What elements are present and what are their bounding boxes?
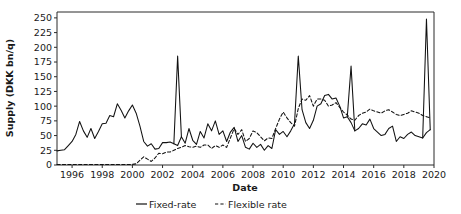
x-tick-label: 2000 (120, 169, 144, 180)
legend-label-flexible-rate: Flexible rate (228, 199, 287, 210)
y-tick-label: 125 (34, 86, 52, 97)
chart-background (0, 0, 461, 214)
y-tick-label: 200 (34, 42, 52, 53)
x-tick-label: 2004 (181, 169, 205, 180)
x-tick-label: 2006 (211, 169, 235, 180)
y-tick-label: 225 (34, 27, 52, 38)
y-axis-title: Supply (DKK bn/q) (4, 39, 15, 137)
x-tick-label: 2014 (331, 169, 355, 180)
y-tick-label: 250 (34, 12, 52, 23)
x-tick-label: 2010 (271, 169, 295, 180)
x-tick-label: 1996 (60, 169, 84, 180)
legend-label-fixed-rate: Fixed-rate (149, 199, 196, 210)
supply-line-chart: 0255075100125150175200225250 19961998200… (0, 0, 461, 214)
x-axis-title: Date (232, 182, 257, 193)
x-tick-label: 2016 (362, 169, 386, 180)
x-tick-label: 2012 (301, 169, 325, 180)
x-tick-label: 2018 (392, 169, 416, 180)
y-tick-label: 50 (40, 130, 52, 141)
x-tick-label: 2020 (422, 169, 446, 180)
y-tick-label: 175 (34, 56, 52, 67)
x-tick-label: 1998 (90, 169, 114, 180)
y-tick-label: 75 (40, 115, 52, 126)
chart-figure: 0255075100125150175200225250 19961998200… (0, 0, 461, 214)
y-tick-label: 150 (34, 71, 52, 82)
x-tick-label: 2002 (150, 169, 174, 180)
y-tick-label: 100 (34, 101, 52, 112)
x-tick-label: 2008 (241, 169, 265, 180)
y-tick-label: 25 (40, 145, 52, 156)
y-tick-label: 0 (46, 159, 52, 170)
